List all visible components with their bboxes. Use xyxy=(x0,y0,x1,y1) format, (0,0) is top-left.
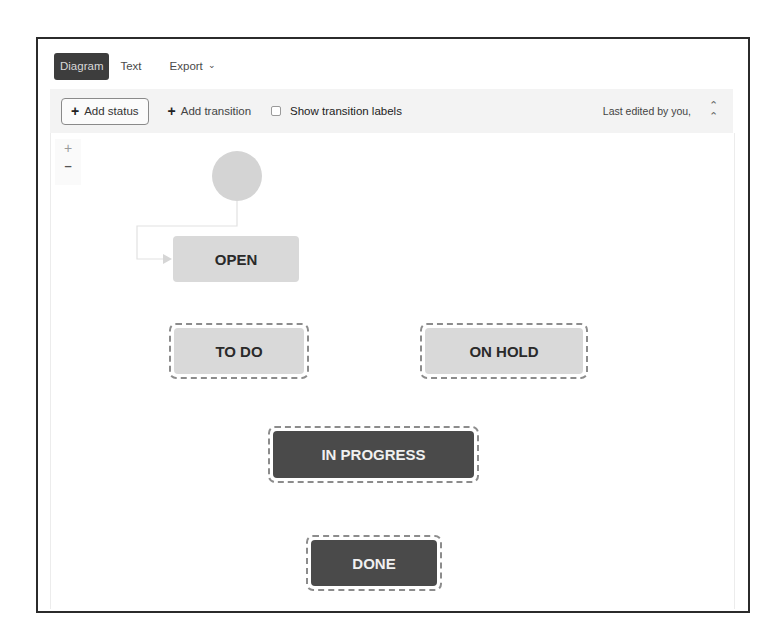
export-dropdown[interactable]: Export ⌄ xyxy=(164,53,222,80)
tab-text-label: Text xyxy=(120,53,141,80)
workflow-editor: Diagram Text Export ⌄ + Add status + Add… xyxy=(36,37,750,613)
status-open[interactable]: OPEN xyxy=(173,236,299,282)
add-status-label: Add status xyxy=(84,105,138,117)
status-todo-label: TO DO xyxy=(215,343,262,360)
status-open-label: OPEN xyxy=(215,251,258,268)
show-transition-labels-toggle[interactable]: Show transition labels xyxy=(271,105,402,117)
show-transition-labels-checkbox[interactable] xyxy=(271,106,281,116)
collapse-chevron-up-icon[interactable]: ⌃⌃ xyxy=(709,100,718,122)
status-done-label: DONE xyxy=(352,555,395,572)
toolbar: + Add status + Add transition Show trans… xyxy=(50,89,733,133)
add-status-button[interactable]: + Add status xyxy=(61,98,149,125)
last-edited-status: Last edited by you, xyxy=(603,105,691,117)
status-onhold[interactable]: ON HOLD xyxy=(425,328,583,374)
status-onhold-selection[interactable]: ON HOLD xyxy=(420,323,588,379)
status-inprogress[interactable]: IN PROGRESS xyxy=(273,431,474,478)
show-transition-labels-label: Show transition labels xyxy=(290,105,402,117)
plus-icon: + xyxy=(168,104,176,118)
status-done[interactable]: DONE xyxy=(311,540,437,586)
add-transition-label: Add transition xyxy=(181,105,251,117)
status-todo[interactable]: TO DO xyxy=(174,328,304,374)
status-done-selection[interactable]: DONE xyxy=(306,535,442,591)
tab-diagram[interactable]: Diagram xyxy=(54,53,109,80)
status-inprogress-label: IN PROGRESS xyxy=(321,446,425,463)
tab-diagram-label: Diagram xyxy=(60,53,103,80)
diagram-canvas[interactable]: + – OPEN TO DO ON HOLD IN PROGR xyxy=(50,133,735,609)
plus-icon: + xyxy=(71,104,79,118)
start-node[interactable] xyxy=(212,151,262,201)
status-inprogress-selection[interactable]: IN PROGRESS xyxy=(268,426,479,483)
chevron-down-icon: ⌄ xyxy=(208,52,216,79)
status-todo-selection[interactable]: TO DO xyxy=(169,323,309,379)
view-tabs: Diagram Text Export ⌄ xyxy=(54,52,222,80)
status-onhold-label: ON HOLD xyxy=(469,343,538,360)
export-label: Export xyxy=(170,53,203,80)
tab-text[interactable]: Text xyxy=(114,53,147,80)
add-transition-button[interactable]: + Add transition xyxy=(168,104,252,118)
arrowhead-icon xyxy=(163,254,172,264)
